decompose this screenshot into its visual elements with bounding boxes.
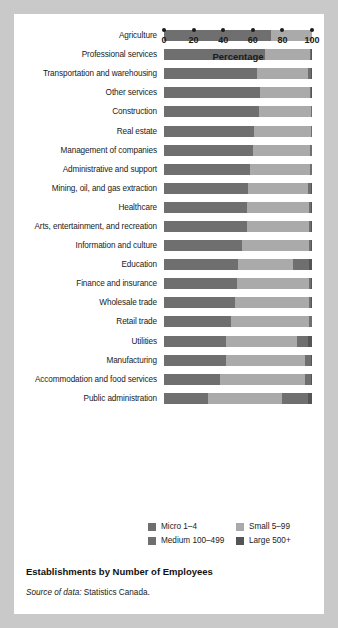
category-label: Public administration [14, 394, 164, 403]
axis-tick-label: 60 [248, 35, 258, 45]
chart-row: Manufacturing [14, 351, 324, 370]
chart-row: Finance and insurance [14, 274, 324, 293]
stacked-bar[interactable] [164, 87, 312, 98]
bar-segment [164, 259, 238, 270]
bar-segment [235, 297, 309, 308]
chart-legend: Micro 1–4 Small 5–99 Medium 100–499 Larg… [148, 522, 324, 550]
bar-segment [164, 145, 253, 156]
stacked-bar-chart: AgricultureProfessional servicesTranspor… [14, 26, 324, 496]
bar-segment [164, 355, 226, 366]
bar-segment [308, 336, 312, 347]
bar-segment [247, 202, 309, 213]
bar-segment [164, 183, 248, 194]
category-label: Agriculture [14, 31, 164, 40]
chart-row: Education [14, 255, 324, 274]
chart-row: Retail trade [14, 312, 324, 331]
stacked-bar[interactable] [164, 68, 312, 79]
axis-tick-label: 20 [189, 35, 199, 45]
category-label: Manufacturing [14, 356, 164, 365]
chart-row: Public administration [14, 389, 324, 408]
category-label: Transportation and warehousing [14, 69, 164, 78]
bar-segment [257, 68, 307, 79]
stacked-bar[interactable] [164, 259, 312, 270]
bar-segment [248, 183, 308, 194]
chart-row: Management of companies [14, 141, 324, 160]
stacked-bar[interactable] [164, 126, 312, 137]
stacked-bar[interactable] [164, 164, 312, 175]
legend-item-large[interactable]: Large 500+ [236, 536, 324, 545]
category-label: Administrative and support [14, 165, 164, 174]
caption-source: Source of data: Statistics Canada. [26, 588, 316, 597]
chart-row: Arts, entertainment, and recreation [14, 217, 324, 236]
bar-segment [164, 106, 259, 117]
stacked-bar[interactable] [164, 297, 312, 308]
bar-segment [164, 316, 231, 327]
axis-tick-dot [192, 28, 196, 32]
stacked-bar[interactable] [164, 202, 312, 213]
category-label: Retail trade [14, 317, 164, 326]
bar-segment [164, 393, 208, 404]
category-label: Professional services [14, 50, 164, 59]
bar-segment [226, 355, 304, 366]
chart-row: Transportation and warehousing [14, 64, 324, 83]
stacked-bar[interactable] [164, 183, 312, 194]
bar-segment [311, 374, 312, 385]
bar-segment [311, 240, 312, 251]
chart-row: Administrative and support [14, 160, 324, 179]
legend-item-small[interactable]: Small 5–99 [236, 522, 324, 531]
legend-swatch-medium [148, 537, 156, 545]
stacked-bar[interactable] [164, 355, 312, 366]
category-label: Real estate [14, 127, 164, 136]
legend-swatch-large [236, 537, 244, 545]
stacked-bar[interactable] [164, 106, 312, 117]
legend-swatch-micro [148, 523, 156, 531]
bar-segment [164, 221, 247, 232]
bar-segment [247, 221, 309, 232]
bar-segment [231, 316, 309, 327]
axis-tick-label: 100 [304, 35, 319, 45]
axis-tick-dot [251, 28, 255, 32]
bar-segment [164, 68, 257, 79]
stacked-bar[interactable] [164, 145, 312, 156]
bar-segment [253, 145, 310, 156]
axis-tick-marks [164, 26, 312, 35]
bar-segment [164, 240, 242, 251]
chart-row: Information and culture [14, 236, 324, 255]
bar-segment [238, 259, 293, 270]
bar-segment [311, 355, 312, 366]
chart-row: Real estate [14, 121, 324, 140]
x-axis-title: Percentage [164, 51, 312, 62]
caption-title: Establishments by Number of Employees [26, 566, 316, 577]
bar-segment [164, 336, 226, 347]
category-label: Arts, entertainment, and recreation [14, 222, 164, 231]
bar-segment [164, 164, 250, 175]
legend-row-top: Micro 1–4 Small 5–99 [148, 522, 324, 531]
source-label: Source of data: [26, 588, 82, 597]
chart-row: Healthcare [14, 198, 324, 217]
category-label: Accommodation and food services [14, 375, 164, 384]
legend-row-bottom: Medium 100–499 Large 500+ [148, 536, 324, 545]
bar-segment [311, 68, 312, 79]
stacked-bar[interactable] [164, 221, 312, 232]
stacked-bar[interactable] [164, 374, 312, 385]
category-label: Construction [14, 107, 164, 116]
bar-segment [260, 87, 310, 98]
legend-label-large: Large 500+ [249, 536, 291, 545]
chart-row: Construction [14, 102, 324, 121]
stacked-bar[interactable] [164, 240, 312, 251]
stacked-bar[interactable] [164, 316, 312, 327]
legend-item-micro[interactable]: Micro 1–4 [148, 522, 236, 531]
bar-segment [164, 126, 254, 137]
axis-tick-dot [310, 28, 314, 32]
category-label: Other services [14, 88, 164, 97]
figure-panel: AgricultureProfessional servicesTranspor… [14, 14, 324, 614]
stacked-bar[interactable] [164, 336, 312, 347]
bar-segment [311, 183, 312, 194]
stacked-bar[interactable] [164, 278, 312, 289]
axis-tick-dot [280, 28, 284, 32]
bar-segment [259, 106, 311, 117]
chart-row: Accommodation and food services [14, 370, 324, 389]
legend-item-medium[interactable]: Medium 100–499 [148, 536, 236, 545]
stacked-bar[interactable] [164, 393, 312, 404]
axis-tick-labels: 020406080100 [164, 35, 312, 48]
